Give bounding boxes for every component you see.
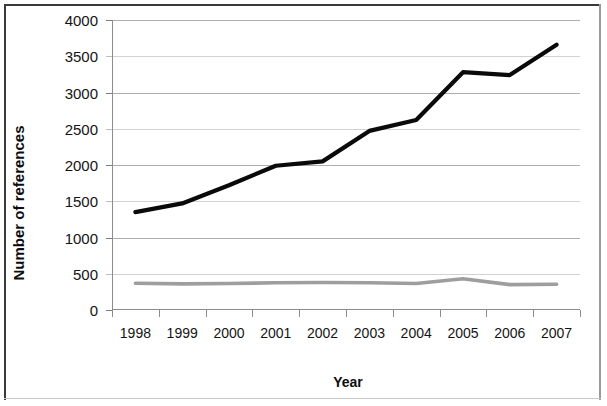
x-axis-tick-mark: [112, 310, 113, 317]
y-axis-tick-labels: 05001000150020002500300035004000: [0, 0, 106, 406]
x-axis-tick-mark: [486, 310, 487, 317]
gridline: [113, 20, 580, 21]
y-axis-tick-label: 0: [90, 302, 98, 319]
x-axis-tick-label: 2002: [307, 325, 338, 341]
x-axis-tick-label: 2005: [447, 325, 478, 341]
y-axis-tick-label: 2000: [65, 157, 98, 174]
gridline: [113, 93, 580, 94]
x-axis-tick-mark: [346, 310, 347, 317]
gridline: [113, 201, 580, 202]
x-axis-tick-label: 1999: [167, 325, 198, 341]
image-border-right: [599, 4, 601, 400]
x-axis-tick-label: 2007: [541, 325, 572, 341]
x-axis-title: Year: [333, 374, 363, 390]
x-axis-tick-mark: [299, 310, 300, 317]
x-axis-tick-label: 2004: [401, 325, 432, 341]
gridline: [113, 56, 580, 57]
x-axis-tick-mark: [252, 310, 253, 317]
x-axis-tick-label: 2001: [260, 325, 291, 341]
plot-area: [112, 20, 580, 310]
y-axis-tick-label: 500: [73, 265, 98, 282]
x-axis-tick-mark: [159, 310, 160, 317]
x-axis-tick-mark: [440, 310, 441, 317]
x-axis-tick-mark: [533, 310, 534, 317]
y-axis-tick-label: 1000: [65, 229, 98, 246]
gridline: [113, 129, 580, 130]
x-axis-tick-label: 1998: [120, 325, 151, 341]
y-axis-tick-label: 4000: [65, 12, 98, 29]
x-axis-tick-mark: [393, 310, 394, 317]
gridline: [113, 238, 580, 239]
x-axis-tick-label: 2003: [354, 325, 385, 341]
chart-figure: Number of references Year 05001000150020…: [0, 0, 607, 406]
y-axis-tick-label: 3500: [65, 48, 98, 65]
x-axis-tick-label: 2006: [494, 325, 525, 341]
x-axis-tick-label: 2000: [213, 325, 244, 341]
gridline: [113, 165, 580, 166]
x-axis-tick-mark: [206, 310, 207, 317]
x-axis-tick-mark: [580, 310, 581, 317]
y-axis-tick-label: 1500: [65, 193, 98, 210]
gridline: [113, 274, 580, 275]
y-axis-tick-label: 2500: [65, 120, 98, 137]
y-axis-tick-label: 3000: [65, 84, 98, 101]
